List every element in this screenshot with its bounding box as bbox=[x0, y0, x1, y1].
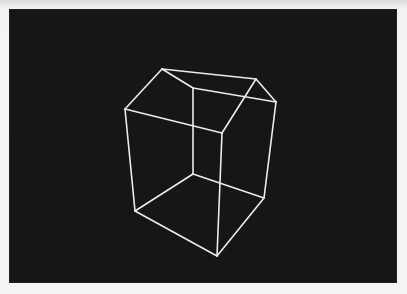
edge-eave_back-eave_right bbox=[193, 88, 276, 102]
edge-roof_peak_left-eave_left bbox=[125, 69, 162, 109]
house-wireframe bbox=[125, 69, 276, 256]
edge-eave_left-eave_front bbox=[125, 109, 222, 133]
edge-base_front-base_right bbox=[217, 198, 264, 256]
edge-roof_peak_right-eave_front bbox=[222, 79, 256, 133]
edge-eave_right-base_right bbox=[264, 102, 276, 198]
edge-eave_front-base_front bbox=[217, 133, 222, 256]
edge-base_left-base_front bbox=[135, 211, 217, 256]
wireframe-viewport bbox=[0, 0, 407, 294]
edge-base_back-base_right bbox=[193, 174, 264, 198]
page bbox=[0, 0, 407, 294]
edge-eave_left-base_left bbox=[125, 109, 135, 211]
edge-base_left-base_back bbox=[135, 174, 193, 211]
